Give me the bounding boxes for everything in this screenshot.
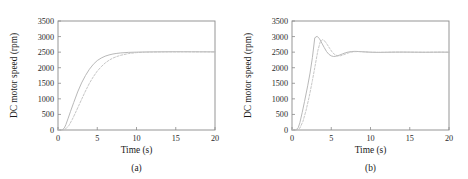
y-axis-title-a: DC motor speed (rpm): [9, 33, 20, 118]
y-tick-label: 3000: [272, 33, 288, 42]
y-tick-labels-b: 0500100015002000250030003500: [272, 17, 288, 135]
y-tick-label: 1500: [272, 79, 288, 88]
x-tick-label: 20: [211, 134, 219, 143]
chart-svg-b: 0500100015002000250030003500 05101520 Ti…: [234, 0, 468, 179]
x-tick-labels-a: 05101520: [56, 134, 219, 143]
x-tick-label: 0: [290, 134, 294, 143]
y-tick-label: 3500: [272, 17, 288, 26]
chart-panel-a: 0500100015002000250030003500 05101520 Ti…: [0, 0, 234, 179]
y-tick-label: 0: [50, 126, 54, 135]
panel-caption-a: (a): [131, 163, 141, 174]
y-tick-label: 1500: [38, 79, 54, 88]
x-axis-title-b: Time (s): [355, 145, 387, 156]
y-axis-title-b: DC motor speed (rpm): [243, 33, 254, 118]
y-tick-label: 0: [284, 126, 288, 135]
y-tick-label: 3000: [38, 33, 54, 42]
chart-panel-b: 0500100015002000250030003500 05101520 Ti…: [234, 0, 468, 179]
x-tick-label: 5: [95, 134, 99, 143]
figure-container: 0500100015002000250030003500 05101520 Ti…: [0, 0, 468, 179]
x-tick-label: 10: [132, 134, 140, 143]
series-dashed-response: [58, 52, 215, 130]
data-curves-b: [292, 36, 449, 130]
plot-frame-a: [58, 21, 215, 130]
series-solid-response: [58, 52, 215, 130]
panel-caption-b: (b): [365, 163, 376, 174]
data-curves-a: [58, 52, 215, 130]
y-tick-label: 2000: [38, 64, 54, 73]
x-tick-label: 0: [56, 134, 60, 143]
x-tick-label: 15: [172, 134, 180, 143]
y-tick-label: 1000: [272, 95, 288, 104]
y-ticks-b: [292, 21, 295, 130]
x-tick-labels-b: 05101520: [290, 134, 453, 143]
y-tick-label: 500: [276, 110, 288, 119]
x-tick-label: 10: [366, 134, 374, 143]
y-tick-label: 2500: [272, 48, 288, 57]
chart-svg-a: 0500100015002000250030003500 05101520 Ti…: [0, 0, 234, 179]
x-axis-title-a: Time (s): [121, 145, 153, 156]
series-dashed-response: [292, 40, 449, 130]
y-tick-label: 3500: [38, 17, 54, 26]
x-tick-label: 15: [406, 134, 414, 143]
y-tick-label: 2500: [38, 48, 54, 57]
y-tick-label: 500: [42, 110, 54, 119]
y-tick-label: 1000: [38, 95, 54, 104]
x-tick-label: 20: [445, 134, 453, 143]
y-tick-label: 2000: [272, 64, 288, 73]
y-tick-labels-a: 0500100015002000250030003500: [38, 17, 54, 135]
series-solid-response: [292, 36, 449, 130]
x-tick-label: 5: [329, 134, 333, 143]
